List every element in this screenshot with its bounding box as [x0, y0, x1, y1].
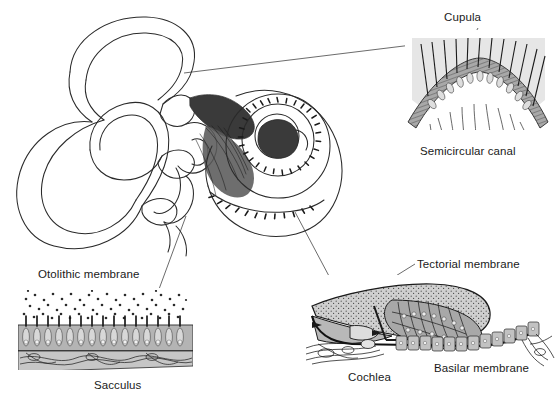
- cochlea-apex-dark: [258, 120, 298, 159]
- figure-artwork: [0, 0, 560, 402]
- leader-line-sacculus: [155, 216, 186, 300]
- oval-window: [164, 222, 170, 252]
- semicircular-canal-inset: [405, 30, 550, 156]
- lateral-canal-return: [90, 150, 162, 180]
- label-sacculus: Sacculus: [94, 380, 141, 392]
- superior-semicircular-canal: [70, 17, 195, 104]
- main-labyrinth-drawing: [17, 17, 342, 256]
- habenula-perforata: [361, 340, 375, 349]
- sacculus-inset: [18, 288, 193, 372]
- inner-ear-figure: Cupula Semicircular canal Otolithic memb…: [0, 0, 560, 402]
- posterior-semicircular-canal-inner: [42, 120, 136, 234]
- ampulla-lateral: [158, 150, 194, 178]
- leader-line-semicircular: [184, 45, 412, 73]
- label-cupula: Cupula: [444, 12, 481, 24]
- lateral-semicircular-canal-inner: [100, 115, 158, 200]
- superior-canal-limb-left: [69, 72, 92, 122]
- vestibulocochlear-nerve-trunk: [190, 95, 254, 139]
- posterior-semicircular-canal: [17, 122, 142, 249]
- label-otolithic-membrane: Otolithic membrane: [38, 269, 140, 281]
- cochlea-inset: [305, 275, 555, 370]
- label-semicircular-canal: Semicircular canal: [420, 146, 516, 158]
- label-tectorial-membrane: Tectorial membrane: [417, 259, 520, 271]
- label-basilar-membrane: Basilar membrane: [434, 363, 529, 375]
- ampulla-posterior: [142, 199, 177, 226]
- label-cochlea: Cochlea: [348, 372, 391, 384]
- macula-hair-cell-nuclei: [24, 340, 182, 344]
- round-window: [176, 226, 187, 256]
- superior-canal-limb-left-inner: [85, 80, 104, 120]
- superior-semicircular-canal-inner: [86, 33, 183, 100]
